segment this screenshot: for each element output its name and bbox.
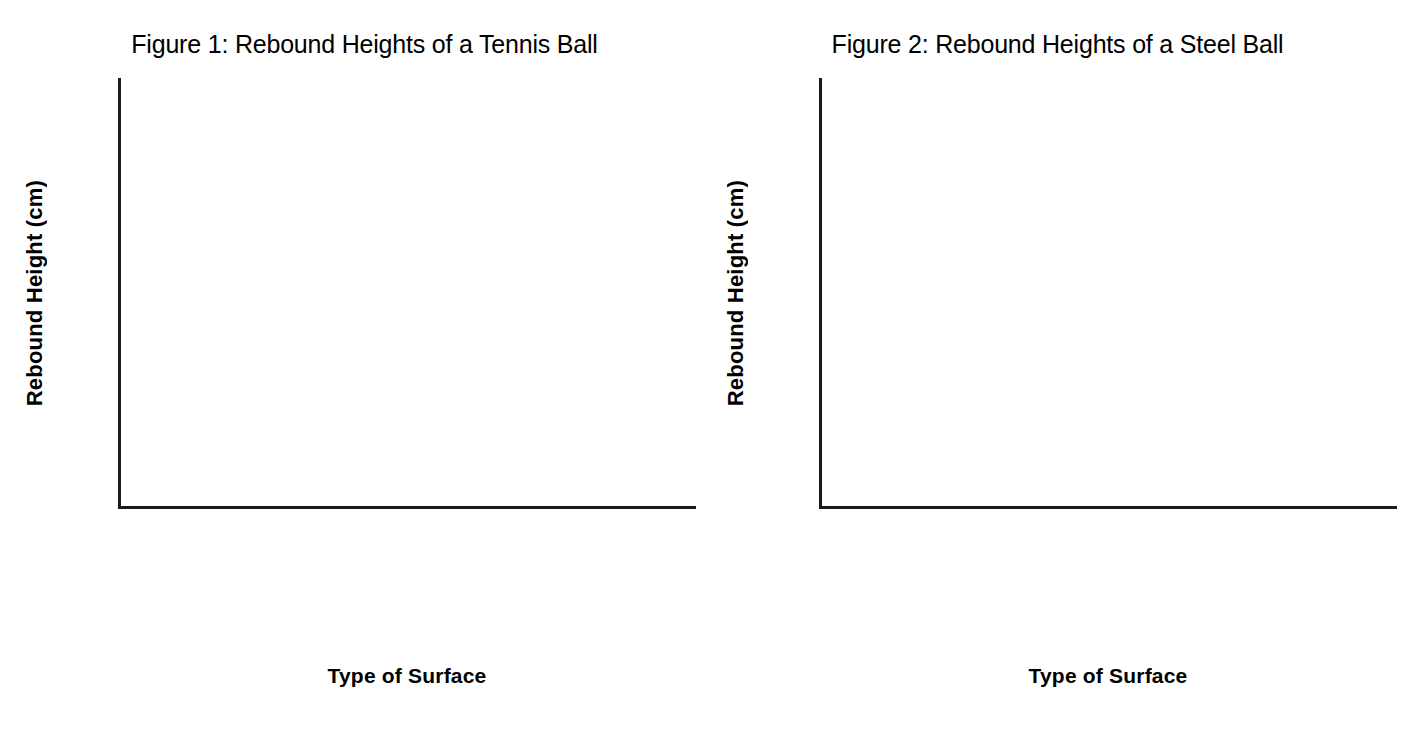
figure-1: Figure 1: Rebound Heights of a Tennis Ba… [0,0,701,729]
figure-1-y-axis-title-text: Rebound Height (cm) [22,180,48,406]
figure-2: Figure 2: Rebound Heights of a Steel Bal… [701,0,1402,729]
figure-2-y-axis-title-text: Rebound Height (cm) [723,180,749,406]
figure-2-y-axis-title: Rebound Height (cm) [719,78,753,508]
figure-2-plot-area [819,78,1379,508]
figure-1-bars [121,78,696,508]
figures-page: Figure 1: Rebound Heights of a Tennis Ba… [0,0,1402,729]
figure-2-category-labels [822,516,1397,666]
figure-2-bars [822,78,1397,508]
figure-2-x-axis-title: Type of Surface [819,664,1397,688]
figure-1-category-labels [121,516,696,666]
figure-1-x-axis-title: Type of Surface [118,664,696,688]
figure-2-title: Figure 2: Rebound Heights of a Steel Bal… [701,30,1402,59]
figure-1-plot-area [118,78,678,508]
figure-1-title: Figure 1: Rebound Heights of a Tennis Ba… [0,30,701,59]
figure-1-y-axis-title: Rebound Height (cm) [18,78,52,508]
